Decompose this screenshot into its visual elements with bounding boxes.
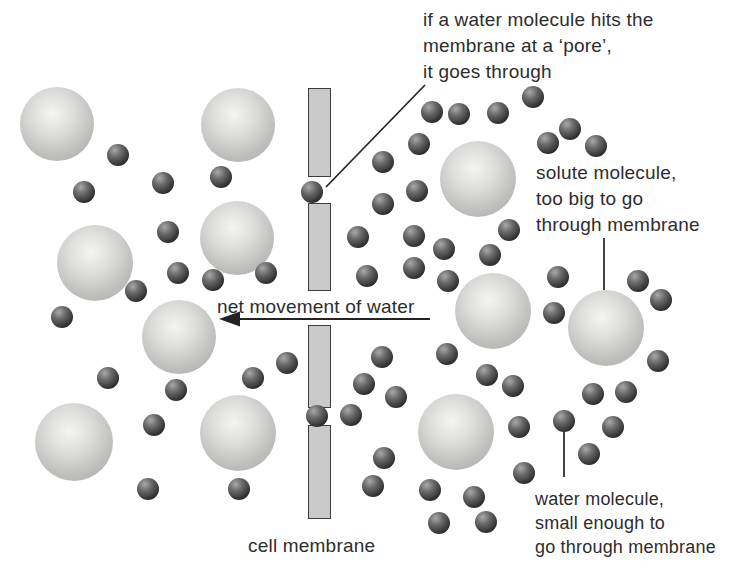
water-molecule [125,280,147,302]
water-molecule [559,118,581,140]
solute-molecule [418,394,494,470]
solute-molecule [455,273,531,349]
membrane-segment [308,88,331,177]
water-molecule [51,306,73,328]
water-molecule [385,386,407,408]
water-molecule [582,383,604,405]
water-molecule [475,511,497,533]
water-molecule [353,373,375,395]
membrane-segment [308,425,331,519]
water-annotation-line3: go through membrane [535,535,716,559]
water-molecule [406,180,428,202]
water-molecule [356,265,378,287]
water-molecule [347,226,369,248]
water-molecule [202,269,224,291]
net-movement-label: net movement of water [217,294,414,320]
water-molecule [537,132,559,154]
solute-molecule [20,87,94,161]
water-molecule [650,289,672,311]
solute-molecule [568,290,644,366]
water-molecule [73,181,95,203]
water-molecule [502,375,524,397]
water-molecule [210,166,232,188]
water-molecule [476,364,498,386]
water-molecule [143,414,165,436]
water-molecule [578,443,600,465]
water-molecule [408,133,430,155]
water-molecule [419,479,441,501]
water-molecule [522,86,544,108]
water-molecule [107,144,129,166]
membrane-segment [308,203,331,291]
water-molecule [97,367,119,389]
water-molecule [371,346,393,368]
water-molecule [585,135,607,157]
osmosis-diagram: if a water molecule hits the membrane at… [0,0,753,584]
water-molecule [487,102,509,124]
water-molecule [403,225,425,247]
water-molecule [513,462,535,484]
water-molecule [602,416,624,438]
water-molecule [157,221,179,243]
water-molecule [340,404,362,426]
water-molecule [498,219,520,241]
pore-annotation-line2: membrane at a ‘pore’, [423,33,654,59]
water-molecule [372,151,394,173]
cell-membrane-label: cell membrane [248,533,375,559]
water-molecule [553,410,575,432]
solute-annotation-line2: too big to go [536,186,700,212]
water-molecule [463,486,485,508]
water-molecule [448,103,470,125]
pore-annotation: if a water molecule hits the membrane at… [423,7,654,85]
water-molecule [508,416,530,438]
pore-annotation-line3: it goes through [423,59,654,85]
water-molecule [276,352,298,374]
water-molecule [421,101,443,123]
solute-molecule [200,395,276,471]
water-annotation-line2: small enough to [535,511,716,535]
water-molecule [306,405,328,427]
water-molecule [152,172,174,194]
water-molecule [372,193,394,215]
water-molecule [437,270,459,292]
solute-molecule [35,403,113,481]
water-molecule [301,181,323,203]
water-molecule [428,512,450,534]
water-molecule [543,302,565,324]
water-molecule [403,257,425,279]
solute-molecule [142,300,216,374]
solute-annotation-line1: solute molecule, [536,160,700,186]
membrane-segment [308,325,331,408]
water-molecule [362,475,384,497]
water-molecule [165,379,187,401]
water-molecule [167,262,189,284]
water-molecule [433,238,455,260]
solute-annotation: solute molecule, too big to go through m… [536,160,700,238]
water-molecule [255,262,277,284]
solute-molecule [440,141,516,217]
solute-molecule [201,88,275,162]
pore-annotation-line1: if a water molecule hits the [423,7,654,33]
water-annotation: water molecule, small enough to go throu… [535,487,716,559]
water-molecule [373,447,395,469]
water-molecule [615,381,637,403]
water-molecule [627,270,649,292]
water-molecule [436,343,458,365]
water-molecule [228,478,250,500]
water-molecule [242,367,264,389]
solute-annotation-line3: through membrane [536,212,700,238]
water-molecule [547,266,569,288]
solute-molecule [57,225,133,301]
water-molecule [647,350,669,372]
water-molecule [137,478,159,500]
water-annotation-line1: water molecule, [535,487,716,511]
water-molecule [479,244,501,266]
